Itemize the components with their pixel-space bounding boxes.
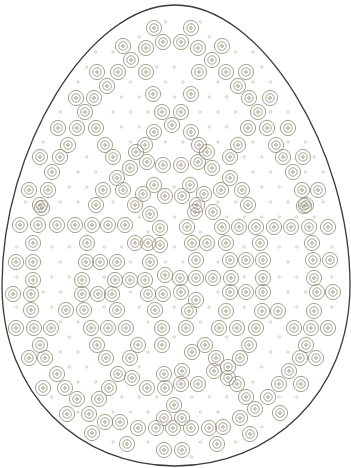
egg-drawing xyxy=(0,0,351,468)
